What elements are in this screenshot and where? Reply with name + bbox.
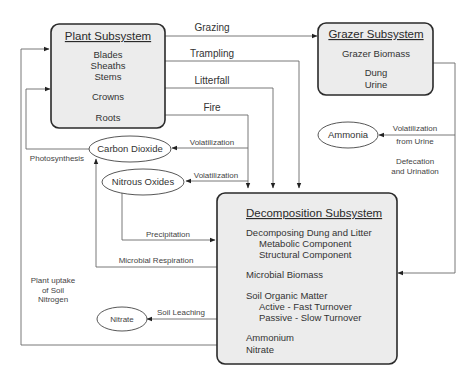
nutrient-cycle-diagram: Plant Subsystem Blades Sheaths Stems Cro…	[0, 0, 473, 377]
decomp-item-ammonium: Ammonium	[246, 332, 294, 343]
from-urine-label: from Urine	[396, 137, 434, 146]
decomp-item-passive: Passive - Slow Turnover	[259, 312, 361, 323]
fire-label: Fire	[203, 102, 221, 113]
decomp-item-som: Soil Organic Matter	[246, 290, 327, 301]
precipitation-label: Precipitation	[146, 230, 190, 239]
trampling-label: Trampling	[190, 48, 234, 59]
grazer-item-dung: Dung	[365, 67, 388, 78]
plant-item-blades: Blades	[93, 49, 122, 60]
volatilization-urine-label: Volatilization	[393, 124, 437, 133]
decomp-item-microbial: Microbial Biomass	[246, 269, 323, 280]
photosynthesis-label: Photosynthesis	[30, 154, 84, 163]
ammonia-label: Ammonia	[328, 129, 369, 140]
defecation-label: Defecation	[396, 157, 434, 166]
carbon-dioxide-pool: Carbon Dioxide	[89, 136, 171, 162]
grazer-subsystem-title: Grazer Subsystem	[328, 28, 423, 40]
plant-subsystem-title: Plant Subsystem	[65, 30, 151, 42]
trampling-arrow	[165, 61, 299, 188]
volatilization-co2-label: Volatilization	[190, 138, 234, 147]
decomposition-subsystem-title: Decomposition Subsystem	[246, 207, 382, 219]
grazer-item-urine: Urine	[365, 79, 388, 90]
decomp-item-active: Active - Fast Turnover	[259, 301, 352, 312]
plant-uptake-label-2: of Soil	[42, 286, 64, 295]
plant-item-roots: Roots	[96, 112, 121, 123]
volatilization-n2o-label: Volatilization	[194, 171, 238, 180]
plant-uptake-label-1: Plant uptake	[31, 276, 76, 285]
plant-uptake-label-3: Nitrogen	[38, 295, 68, 304]
nitrous-oxides-pool: Nitrous Oxides	[102, 169, 184, 195]
plant-item-stems: Stems	[95, 71, 122, 82]
plant-item-crowns: Crowns	[92, 91, 124, 102]
carbon-dioxide-label: Carbon Dioxide	[97, 143, 162, 154]
decomp-item-decomposing: Decomposing Dung and Litter	[246, 227, 372, 238]
grazer-item-biomass: Grazer Biomass	[342, 48, 410, 59]
nitrate-pool-label: Nitrate	[110, 315, 134, 324]
grazer-subsystem-box: Grazer Subsystem Grazer Biomass Dung Uri…	[318, 23, 433, 95]
urination-label: and Urination	[391, 167, 439, 176]
litterfall-label: Litterfall	[194, 75, 229, 86]
plant-item-sheaths: Sheaths	[91, 60, 126, 71]
decomp-item-metabolic: Metabolic Component	[259, 238, 352, 249]
plant-subsystem-box: Plant Subsystem Blades Sheaths Stems Cro…	[51, 24, 165, 128]
decomposition-subsystem-box: Decomposition Subsystem Decomposing Dung…	[217, 193, 397, 364]
ammonia-pool: Ammonia	[318, 122, 378, 148]
grazing-label: Grazing	[194, 22, 229, 33]
decomp-item-structural: Structural Component	[259, 249, 352, 260]
decomp-item-nitrate: Nitrate	[246, 344, 274, 355]
nitrous-oxides-label: Nitrous Oxides	[112, 176, 175, 187]
microbial-respiration-label: Microbial Respiration	[119, 256, 194, 265]
nitrate-pool: Nitrate	[97, 307, 147, 331]
soil-leaching-label: Soil Leaching	[157, 308, 205, 317]
